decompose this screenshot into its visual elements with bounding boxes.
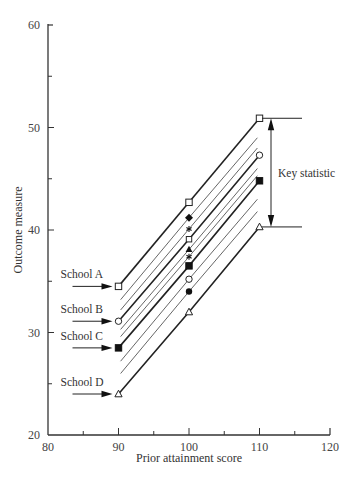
x-axis-title: Prior attainment score [136, 451, 242, 465]
y-tick-label: 30 [28, 326, 40, 340]
arrow-down-icon [268, 215, 274, 227]
school-label: School D [61, 376, 104, 388]
open-square-marker [115, 283, 121, 289]
open-circle-marker [256, 152, 262, 158]
y-tick-label: 20 [28, 428, 40, 442]
x-tick-label: 120 [321, 440, 339, 454]
chart-canvas: 20304050608090100110120 School ASchool B… [0, 0, 355, 483]
arrow-head-icon [102, 318, 113, 324]
open-square-marker [186, 237, 191, 242]
filled-square-marker [115, 345, 121, 351]
filled-circle-marker [186, 288, 192, 294]
filled-square-marker [256, 178, 262, 184]
open-circle-marker [186, 276, 192, 282]
filled-square-marker [186, 263, 192, 269]
x-tick-label: 110 [251, 440, 269, 454]
arrow-head-icon [102, 391, 113, 397]
y-tick-label: 60 [28, 18, 40, 32]
arrow-head-icon [102, 345, 113, 351]
key-statistic-label: Key statistic [278, 167, 335, 180]
y-tick-label: 40 [28, 223, 40, 237]
arrow-head-icon [102, 283, 113, 289]
school-label: School B [61, 303, 104, 315]
y-tick-label: 50 [28, 121, 40, 135]
school-label: School A [61, 268, 104, 280]
y-axis-title: Outcome measure [11, 187, 25, 274]
x-tick-label: 80 [42, 440, 54, 454]
open-square-marker [186, 199, 192, 205]
annotations: School ASchool BSchool CSchool DKey stat… [61, 118, 336, 397]
open-square-marker [256, 115, 262, 121]
arrow-up-icon [268, 118, 274, 130]
school-label: School C [61, 330, 104, 342]
x-tick-label: 90 [113, 440, 125, 454]
open-circle-marker [115, 318, 121, 324]
